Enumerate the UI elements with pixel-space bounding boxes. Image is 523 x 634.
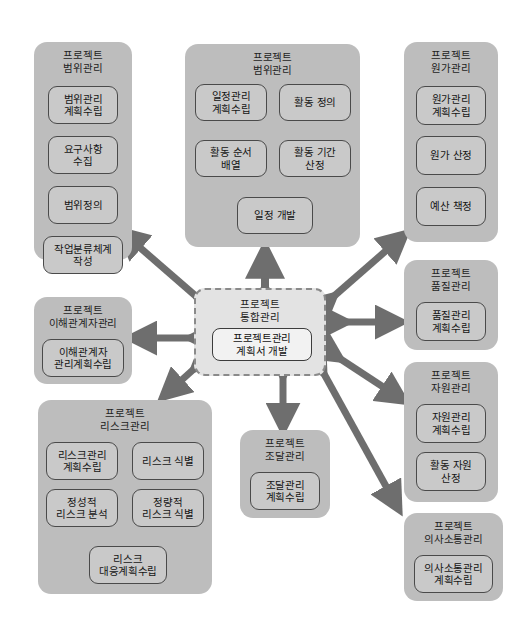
node-stakeholder-plan[interactable]: 이해관계자 관리계획수립 [42, 339, 124, 377]
group-scope[interactable]: 프로젝트 범위관리 범위관리 계획수립 요구사항 수집 범위정의 작업분류체계 … [34, 42, 132, 260]
group-cost-title: 프로젝트 원가관리 [431, 42, 470, 74]
group-integration[interactable]: 프로젝트 통합관리 프로젝트관리 계획서 개발 [194, 288, 326, 376]
node-sequence-activities[interactable]: 활동 순서 배열 [195, 140, 267, 177]
group-quality-title: 프로젝트 품질관리 [431, 260, 470, 292]
node-schedule-plan[interactable]: 일정관리 계획수립 [195, 84, 267, 121]
node-cost-plan[interactable]: 원가관리 계획수립 [416, 86, 486, 125]
group-communication-title: 프로젝트 의사소통관리 [424, 513, 483, 545]
node-plan-risk-responses[interactable]: 리스크 대응계획수립 [89, 546, 167, 584]
group-stakeholder[interactable]: 프로젝트 이해관계자관리 이해관계자 관리계획수립 [34, 297, 132, 384]
group-resource-title: 프로젝트 자원관리 [431, 362, 470, 394]
connector-center-communication [323, 372, 398, 508]
group-integration-title: 프로젝트 통합관리 [196, 298, 324, 323]
node-procurement-plan[interactable]: 조달관리 계획수립 [250, 472, 320, 510]
group-resource[interactable]: 프로젝트 자원관리 자원관리 계획수립 활동 자원 산정 [404, 362, 498, 502]
group-communication[interactable]: 프로젝트 의사소통관리 의사소통관리 계획수립 [404, 513, 503, 601]
node-create-wbs[interactable]: 작업분류체계 작성 [43, 236, 123, 274]
node-resource-plan[interactable]: 자원관리 계획수립 [416, 404, 486, 443]
node-identify-risks[interactable]: 리스크 식별 [132, 442, 204, 480]
node-collect-requirements[interactable]: 요구사항 수집 [48, 136, 118, 174]
node-communication-plan[interactable]: 의사소통관리 계획수립 [414, 555, 493, 593]
node-qualitative-risk-analysis[interactable]: 정성적 리스크 분석 [46, 489, 118, 527]
group-stakeholder-title: 프로젝트 이해관계자관리 [49, 297, 118, 329]
group-schedule[interactable]: 프로젝트 범위관리 일정관리 계획수립 활동 정의 활동 순서 배열 활동 기간… [185, 44, 360, 247]
group-procurement-title: 프로젝트 조달관리 [265, 430, 304, 462]
connector-center-scope [122, 232, 198, 298]
node-determine-budget[interactable]: 예산 책정 [416, 187, 486, 226]
node-scope-plan[interactable]: 범위관리 계획수립 [48, 86, 118, 124]
connector-center-resource [339, 358, 403, 400]
node-estimate-activity-durations[interactable]: 활동 기간 산정 [279, 140, 351, 177]
node-quality-plan[interactable]: 품질관리 계획수립 [416, 302, 486, 341]
node-estimate-activity-resources[interactable]: 활동 자원 산정 [416, 452, 486, 491]
process-relationship-diagram: 프로젝트 범위관리 범위관리 계획수립 요구사항 수집 범위정의 작업분류체계 … [0, 0, 523, 634]
connector-center-risk [164, 368, 195, 396]
group-risk[interactable]: 프로젝트 리스크관리 리스크관리 계획수립 리스크 식별 정성적 리스크 분석 … [38, 400, 212, 594]
group-scope-title: 프로젝트 범위관리 [63, 42, 102, 74]
node-develop-project-management-plan[interactable]: 프로젝트관리 계획서 개발 [212, 328, 312, 361]
group-cost[interactable]: 프로젝트 원가관리 원가관리 계획수립 원가 산정 예산 책정 [404, 42, 498, 242]
node-quantitative-risk-analysis[interactable]: 정량적 리스크 식별 [132, 489, 204, 527]
node-define-activities[interactable]: 활동 정의 [279, 84, 351, 121]
group-procurement[interactable]: 프로젝트 조달관리 조달관리 계획수립 [240, 430, 330, 518]
node-develop-schedule[interactable]: 일정 개발 [237, 197, 313, 234]
group-schedule-title: 프로젝트 범위관리 [253, 44, 292, 76]
node-risk-plan[interactable]: 리스크관리 계획수립 [46, 442, 118, 480]
node-define-scope[interactable]: 범위정의 [48, 186, 118, 224]
group-quality[interactable]: 프로젝트 품질관리 품질관리 계획수립 [404, 260, 498, 350]
node-estimate-costs[interactable]: 원가 산정 [416, 136, 486, 175]
group-risk-title: 프로젝트 리스크관리 [100, 400, 149, 432]
